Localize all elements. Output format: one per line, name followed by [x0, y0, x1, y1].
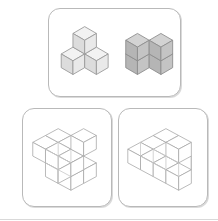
answer-right-svg: [119, 109, 207, 206]
dark-four-cube-block: [126, 33, 173, 74]
prompt-shapes-svg: [49, 9, 180, 96]
prompt-panel[interactable]: [48, 8, 181, 97]
answer-left-figure: [23, 109, 111, 206]
prompt-panel-figure: [49, 9, 180, 96]
white-wireframe-assembly-left: [33, 129, 97, 191]
white-wireframe-assembly-right: [128, 129, 192, 191]
answer-right-figure: [119, 109, 207, 206]
answer-option-right[interactable]: [118, 108, 208, 207]
figure-root: [0, 0, 218, 221]
answer-left-svg: [23, 109, 111, 206]
light-three-cube-group: [61, 27, 108, 75]
page-base-rule: [0, 219, 218, 220]
answer-option-left[interactable]: [22, 108, 112, 207]
